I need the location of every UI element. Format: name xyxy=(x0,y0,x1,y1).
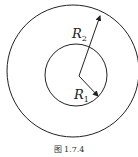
outer-radius-arrow xyxy=(79,16,100,76)
outer-circle xyxy=(7,5,138,137)
outer-radius-label: R2 xyxy=(71,26,87,43)
figure-caption: 图 1.7.4 xyxy=(0,143,138,154)
concentric-circles-diagram: R2 R1 xyxy=(0,0,138,157)
inner-radius-label: R1 xyxy=(73,87,89,104)
